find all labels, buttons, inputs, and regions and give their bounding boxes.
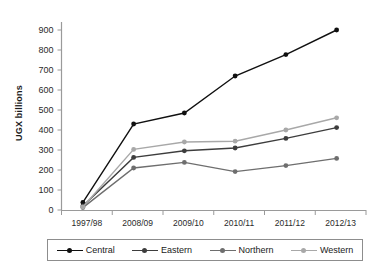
x-axis-labels: 1997/982008/092009/102010/112011/122012/… xyxy=(72,218,357,228)
data-point xyxy=(131,147,136,152)
y-tick-label: 400 xyxy=(38,125,53,135)
legend-swatch-icon xyxy=(291,246,317,255)
series-western xyxy=(80,115,339,209)
series-central xyxy=(80,28,339,205)
legend-label: Western xyxy=(320,245,353,255)
data-point xyxy=(233,74,238,79)
legend-label: Eastern xyxy=(161,245,192,255)
y-axis-labels: 9008007006005004003002001000 xyxy=(38,25,53,215)
data-point xyxy=(233,139,238,144)
data-point xyxy=(182,111,187,116)
series-line xyxy=(83,30,337,202)
chart-legend: CentralEasternNorthernWestern xyxy=(47,239,363,261)
line-chart: UGX billions 1997/982008/092009/102010/1… xyxy=(0,0,373,268)
legend-label: Central xyxy=(86,245,115,255)
chart-svg: 1997/982008/092009/102010/112011/122012/… xyxy=(0,0,373,268)
data-point xyxy=(182,160,187,165)
x-tick-label: 2010/11 xyxy=(224,218,254,228)
x-tick-label: 2011/12 xyxy=(275,218,305,228)
plot-area: 1997/982008/092009/102010/112011/122012/… xyxy=(0,0,373,268)
data-point xyxy=(334,115,339,120)
x-tick-label: 2008/09 xyxy=(122,218,153,228)
data-point xyxy=(233,146,238,151)
data-point xyxy=(131,166,136,171)
data-point xyxy=(182,140,187,145)
data-point xyxy=(334,156,339,161)
data-point xyxy=(182,148,187,153)
data-point xyxy=(334,28,339,33)
series-line xyxy=(83,118,337,207)
series-layer xyxy=(80,28,339,210)
series-northern xyxy=(80,156,339,210)
data-point xyxy=(283,163,288,168)
data-point xyxy=(283,128,288,133)
series-line xyxy=(83,158,337,207)
legend-swatch-icon xyxy=(132,246,158,255)
y-tick-label: 200 xyxy=(38,165,53,175)
legend-swatch-icon xyxy=(57,246,83,255)
x-tick-label: 2012/13 xyxy=(325,218,356,228)
y-tick-label: 300 xyxy=(38,145,53,155)
legend-item-western[interactable]: Western xyxy=(291,245,353,255)
legend-item-central[interactable]: Central xyxy=(57,245,115,255)
data-point xyxy=(131,122,136,127)
x-tick-label: 1997/98 xyxy=(72,218,103,228)
y-tick-label: 800 xyxy=(38,45,53,55)
y-tick-label: 700 xyxy=(38,65,53,75)
y-tick-label: 100 xyxy=(38,185,53,195)
data-point xyxy=(80,205,85,210)
y-tick-label: 0 xyxy=(48,205,53,215)
legend-item-northern[interactable]: Northern xyxy=(210,245,274,255)
legend-swatch-icon xyxy=(210,246,236,255)
data-point xyxy=(283,52,288,57)
y-tick-label: 900 xyxy=(38,25,53,35)
legend-item-eastern[interactable]: Eastern xyxy=(132,245,192,255)
y-tick-label: 600 xyxy=(38,85,53,95)
y-tick-label: 500 xyxy=(38,105,53,115)
data-point xyxy=(283,136,288,141)
legend-label: Northern xyxy=(239,245,274,255)
data-point xyxy=(334,125,339,130)
data-point xyxy=(131,155,136,160)
x-tick-label: 2009/10 xyxy=(173,218,204,228)
data-point xyxy=(233,169,238,174)
